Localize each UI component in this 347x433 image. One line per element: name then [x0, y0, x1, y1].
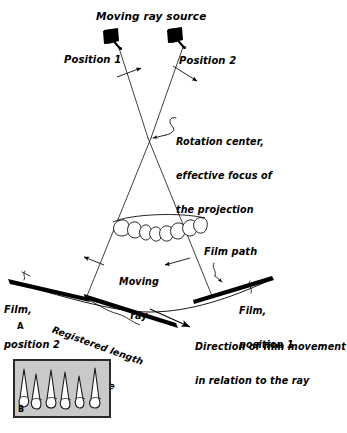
caption-strip	[18, 427, 338, 433]
panel-b-letter: B	[18, 405, 24, 414]
figure-title-label: Moving ray source	[96, 10, 206, 22]
x-ray-tube-head-2-icon	[167, 27, 186, 49]
film-position-1-line-1: Film,	[239, 305, 294, 316]
position-1-arrow	[117, 68, 141, 77]
moving-ray-arrow-right	[165, 258, 190, 265]
position-2-arrow	[173, 66, 197, 81]
rotation-center-leader	[153, 118, 176, 138]
moving-ray-line-2: ray	[119, 310, 159, 321]
film-path-label: Film path	[204, 246, 257, 258]
panel-b-radiograph	[13, 359, 111, 418]
panel-a-letter: A	[17, 321, 24, 331]
rotation-center-line-2: effective focus of	[176, 170, 272, 181]
film-path-hook	[213, 263, 215, 276]
film-movement-direction-line-2: in relation to the ray	[195, 375, 346, 386]
x-ray-tube-head-1-icon	[103, 28, 122, 50]
panoramic-radiography-figure: Moving ray source Position 1 Position 2 …	[0, 0, 347, 433]
film-position-2-tick	[22, 272, 30, 276]
film-movement-direction-label: Direction of film movement in relation t…	[195, 318, 346, 409]
film-position-2-hook	[24, 271, 25, 280]
film-position-2-line-1: Film,	[4, 304, 60, 316]
rotation-center-line-3: the projection	[176, 204, 272, 215]
film-movement-direction-line-1: Direction of film movement	[195, 341, 346, 352]
position-2-label: Position 2	[179, 55, 236, 67]
rotation-center-line-1: Rotation center,	[176, 136, 272, 147]
rotation-center-label: Rotation center, effective focus of the …	[176, 113, 272, 237]
position-1-label: Position 1	[64, 54, 121, 66]
moving-ray-line-1: Moving	[119, 276, 159, 287]
film-path-leader	[215, 276, 222, 282]
panoramic-radiograph-icon	[15, 361, 109, 416]
